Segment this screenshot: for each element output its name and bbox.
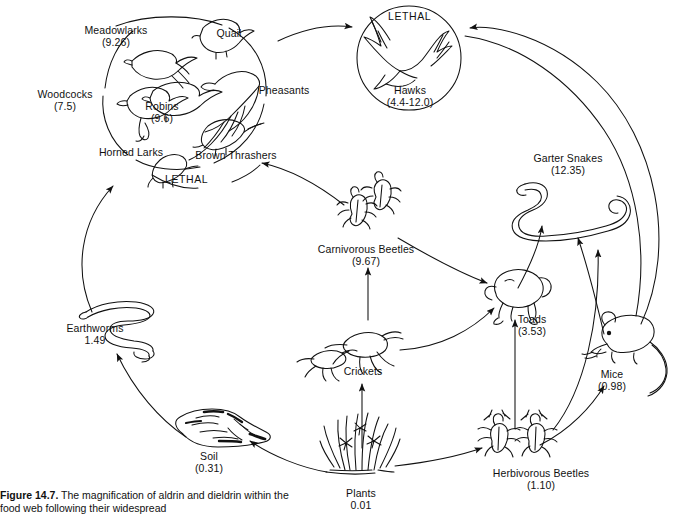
- node-value-toads: (3.53): [505, 325, 559, 337]
- node-label-quail: Quail: [204, 27, 254, 39]
- node-name-mice: Mice: [587, 368, 637, 380]
- garter-snake-glyph: [512, 183, 630, 241]
- figure-number: Figure 14.7.: [0, 489, 58, 501]
- edge-plants-to-soil: [250, 441, 327, 472]
- node-value-earthworms: 1.49: [52, 334, 138, 346]
- edge-earthworms-to-hornedlarks: [82, 186, 113, 312]
- edge-plants-to-herbbeetles: [395, 448, 482, 466]
- plants-glyph: [320, 413, 400, 474]
- node-label-herbivorous-beetles: Herbivorous Beetles (1.10): [477, 467, 605, 492]
- node-value-mice: (0.98): [587, 380, 637, 392]
- bird-meadowlark-glyph: [124, 50, 197, 88]
- node-label-woodcocks: Woodcocks (7.5): [22, 88, 108, 113]
- bird-hawk-glyph: [364, 17, 452, 89]
- node-name-plants: Plants: [332, 487, 390, 499]
- node-value-plants: 0.01: [332, 499, 390, 511]
- node-label-garter-snakes: Garter Snakes (12.35): [520, 152, 616, 177]
- node-value-robins: (9.6): [132, 112, 192, 124]
- node-label-robins: Robins (9.6): [132, 100, 192, 125]
- edge-songbirds-to-hawks: [278, 26, 352, 41]
- node-name-carnivorous-beetles: Carnivorous Beetles: [303, 243, 429, 255]
- figure-canvas: Meadowlarks (9.26) Quail Woodcocks (7.5)…: [0, 0, 680, 525]
- figure-caption: Figure 14.7. The magnification of aldrin…: [0, 489, 300, 516]
- lethal-marker-hawks: LETHAL: [388, 10, 431, 22]
- node-value-meadowlarks: (9.26): [73, 36, 159, 48]
- node-name-horned-larks: Horned Larks: [90, 146, 172, 158]
- node-label-crickets: Crickets: [334, 365, 392, 377]
- node-name-garter-snakes: Garter Snakes: [520, 152, 616, 164]
- node-name-woodcocks: Woodcocks: [22, 88, 108, 100]
- node-label-meadowlarks: Meadowlarks (9.26): [73, 24, 159, 49]
- node-name-hawks: Hawks: [377, 84, 443, 96]
- edge-mice-to-snakes: [578, 238, 604, 334]
- lethal-marker-songbirds: LETHAL: [165, 173, 208, 185]
- node-label-plants: Plants 0.01: [332, 487, 390, 512]
- node-name-quail: Quail: [204, 27, 254, 39]
- node-name-robins: Robins: [132, 100, 192, 112]
- node-value-herbivorous-beetles: (1.10): [477, 479, 605, 491]
- node-name-toads: Toads: [505, 313, 559, 325]
- node-label-toads: Toads (3.53): [505, 313, 559, 338]
- node-label-brown-thrashers: Brown Thrashers: [186, 149, 286, 161]
- edge-carnbeetles-to-thrashers: [262, 163, 344, 205]
- node-value-carnivorous-beetles: (9.67): [303, 255, 429, 267]
- node-label-mice: Mice (0.98): [587, 368, 637, 393]
- node-value-garter-snakes: (12.35): [520, 164, 616, 176]
- node-name-pheasants: Pheasants: [252, 84, 316, 96]
- node-name-soil: Soil: [185, 450, 233, 462]
- node-label-earthworms: Earthworms 1.49: [52, 322, 138, 347]
- node-name-meadowlarks: Meadowlarks: [73, 24, 159, 36]
- node-label-horned-larks: Horned Larks: [90, 146, 172, 158]
- node-value-woodcocks: (7.5): [22, 100, 108, 112]
- node-name-earthworms: Earthworms: [52, 322, 138, 334]
- node-name-herbivorous-beetles: Herbivorous Beetles: [477, 467, 605, 479]
- node-value-hawks: (4.4-12.0): [377, 96, 443, 108]
- node-name-brown-thrashers: Brown Thrashers: [186, 149, 286, 161]
- node-label-soil: Soil (0.31): [185, 450, 233, 475]
- node-label-hawks: Hawks (4.4-12.0): [377, 84, 443, 109]
- carnivorous-beetles-glyph: [337, 172, 401, 229]
- node-name-crickets: Crickets: [334, 365, 392, 377]
- node-label-pheasants: Pheasants: [252, 84, 316, 96]
- soil-glyph: [176, 409, 271, 447]
- herbivorous-beetles-glyph: [478, 410, 557, 457]
- node-label-carnivorous-beetles: Carnivorous Beetles (9.67): [303, 243, 429, 268]
- edge-herbbeetles-to-mice: [540, 386, 604, 445]
- node-value-soil: (0.31): [185, 462, 233, 474]
- edge-crickets-to-toads: [400, 308, 494, 350]
